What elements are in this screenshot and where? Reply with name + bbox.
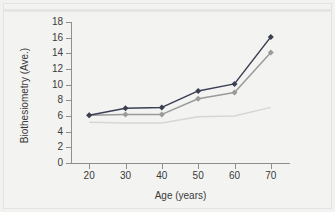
chart-figure: 024681012141618 203040506070 Age (years)… [0,0,335,212]
series-plot [0,0,335,212]
series-marker-dark-series [123,105,129,111]
series-marker-mid-gray-series [195,96,201,102]
series-marker-dark-series [86,112,92,118]
series-marker-dark-series [195,88,201,94]
series-marker-dark-series [159,104,165,110]
series-marker-mid-gray-series [159,111,165,117]
series-marker-mid-gray-series [123,111,129,117]
series-line-mid-gray-series [89,53,271,116]
series-line-dark-series [89,37,271,115]
